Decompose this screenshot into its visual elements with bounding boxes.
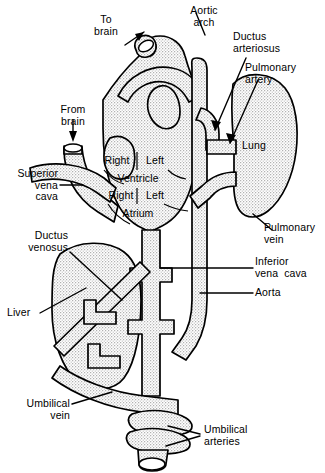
label-ductus-venosus: Ductus venosus xyxy=(2,230,68,253)
label-from-brain: From brain xyxy=(46,104,100,127)
label-pulmonary-vein: Pulmonary vein xyxy=(264,222,325,245)
label-superior-vena-cava: Superior vena cava xyxy=(2,168,58,203)
label-left-atrium: Left xyxy=(140,190,170,202)
label-umbilical-vein: Umbilical vein xyxy=(2,398,70,421)
label-to-brain: To brain xyxy=(80,14,132,37)
label-inferior-vena-cava: Inferior vena cava xyxy=(255,256,325,279)
label-liver: Liver xyxy=(7,307,47,319)
label-pulmonary-artery: Pulmonary artery xyxy=(245,62,325,85)
label-right-atrium: Right xyxy=(104,190,138,202)
label-umbilical-arteries: Umbilical arteries xyxy=(204,424,280,447)
diagram-canvas: To brain Aortic arch Ductus arteriosus P… xyxy=(0,0,325,473)
cord-lumen xyxy=(139,458,165,470)
arrowhead-from-brain xyxy=(69,131,77,142)
label-aortic-arch: Aortic arch xyxy=(176,5,232,28)
label-atrium: Atrium xyxy=(114,208,162,220)
label-ductus-arteriosus: Ductus arteriosus xyxy=(233,31,323,54)
label-left-ventricle: Left xyxy=(140,155,170,167)
svc-lumen xyxy=(64,144,82,152)
label-ventricle: Ventricle xyxy=(110,173,166,185)
label-aorta: Aorta xyxy=(255,287,305,299)
label-lung: Lung xyxy=(234,140,274,152)
label-right-ventricle: Right xyxy=(100,155,134,167)
pulmonary-artery xyxy=(207,140,236,154)
heart-and-great-vessels xyxy=(103,36,201,232)
